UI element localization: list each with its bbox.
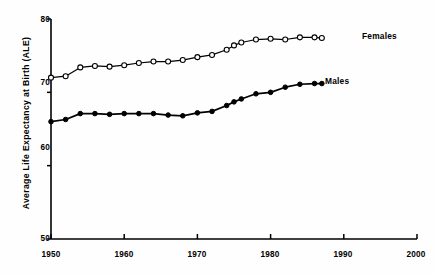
data-point-males-1962 — [137, 111, 142, 116]
data-point-females-1970 — [195, 55, 200, 60]
data-point-males-1950 — [49, 119, 54, 124]
data-point-males-1980 — [268, 90, 273, 95]
axes — [51, 19, 417, 239]
data-point-males-1952 — [63, 117, 68, 122]
data-point-males-1982 — [283, 85, 288, 90]
data-point-females-1952 — [63, 74, 68, 79]
data-point-females-1978 — [253, 37, 258, 42]
data-point-males-1964 — [151, 111, 156, 116]
data-point-males-1974 — [224, 103, 229, 108]
data-point-females-1954 — [78, 65, 83, 70]
data-point-males-1966 — [166, 113, 171, 118]
data-point-females-1964 — [151, 59, 156, 64]
plot-area — [0, 0, 437, 276]
data-point-females-1984 — [297, 35, 302, 40]
data-point-males-1976 — [239, 97, 244, 102]
series-label-females: Females — [362, 31, 397, 41]
data-point-males-1978 — [254, 92, 259, 97]
chart-container: Average Life Expectancy at Birth (ALE) 8… — [0, 0, 437, 276]
data-point-females-1987 — [319, 36, 324, 41]
data-point-females-1958 — [107, 64, 112, 69]
data-point-males-1954 — [78, 111, 83, 116]
data-point-males-1986 — [312, 81, 317, 86]
data-point-males-1956 — [93, 111, 98, 116]
series-label-males: Males — [325, 76, 349, 86]
data-point-males-1975 — [232, 100, 237, 105]
series-line-females — [51, 37, 322, 77]
data-point-females-1975 — [232, 43, 237, 48]
data-point-females-1980 — [268, 36, 273, 41]
data-point-males-1970 — [195, 111, 200, 116]
data-point-males-1960 — [122, 111, 127, 116]
series-females — [49, 35, 325, 80]
data-point-males-1987 — [320, 81, 325, 86]
data-point-females-1950 — [49, 75, 54, 80]
data-point-females-1986 — [312, 35, 317, 40]
data-point-females-1968 — [180, 58, 185, 63]
series-males — [49, 81, 324, 124]
data-point-females-1982 — [283, 37, 288, 42]
data-point-females-1962 — [136, 61, 141, 66]
data-point-females-1976 — [239, 40, 244, 45]
data-point-males-1968 — [180, 114, 185, 119]
data-point-females-1972 — [210, 52, 215, 57]
data-point-females-1956 — [92, 63, 97, 68]
data-point-females-1974 — [224, 47, 229, 52]
data-series-layer — [49, 35, 325, 124]
data-point-females-1966 — [166, 59, 171, 64]
data-point-males-1984 — [298, 82, 303, 87]
data-point-females-1960 — [122, 63, 127, 68]
series-line-males — [51, 84, 322, 122]
data-point-males-1958 — [107, 112, 112, 117]
data-point-males-1972 — [210, 109, 215, 114]
